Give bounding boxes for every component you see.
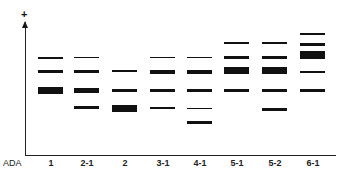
band xyxy=(74,106,99,109)
band xyxy=(224,89,249,92)
band xyxy=(262,67,287,74)
band xyxy=(150,57,175,58)
band xyxy=(262,56,287,59)
band xyxy=(262,42,287,44)
positive-pole-symbol: + xyxy=(21,9,27,19)
band xyxy=(262,89,287,92)
band xyxy=(300,51,325,59)
band xyxy=(38,70,63,73)
lane-label: 2 xyxy=(110,158,140,168)
lane-label: 3-1 xyxy=(148,158,178,168)
lane-label: 1 xyxy=(36,158,66,168)
lane-label: 4-1 xyxy=(185,158,215,168)
band xyxy=(224,67,249,74)
band xyxy=(74,70,99,73)
origin-baseline xyxy=(25,155,336,156)
band xyxy=(112,105,137,112)
band xyxy=(187,57,212,58)
band xyxy=(224,56,249,59)
band xyxy=(150,107,175,109)
lane-label: 2-1 xyxy=(72,158,102,168)
row-label-ada: ADA xyxy=(3,158,22,168)
lane-label: 5-1 xyxy=(222,158,252,168)
band xyxy=(187,108,212,109)
band xyxy=(300,33,325,35)
band xyxy=(112,70,137,72)
band xyxy=(300,71,325,73)
band xyxy=(112,89,137,92)
band xyxy=(38,87,63,94)
band xyxy=(300,89,325,92)
band xyxy=(300,43,325,46)
migration-axis xyxy=(25,22,26,156)
band xyxy=(74,88,99,93)
lane-label: 5-2 xyxy=(260,158,290,168)
band xyxy=(187,121,212,124)
lane-label: 6-1 xyxy=(298,158,328,168)
band xyxy=(262,108,287,111)
band xyxy=(74,57,99,58)
band xyxy=(187,89,212,92)
band xyxy=(150,70,175,74)
band xyxy=(38,57,63,59)
band xyxy=(150,89,175,92)
band xyxy=(187,70,212,74)
band xyxy=(224,42,249,44)
